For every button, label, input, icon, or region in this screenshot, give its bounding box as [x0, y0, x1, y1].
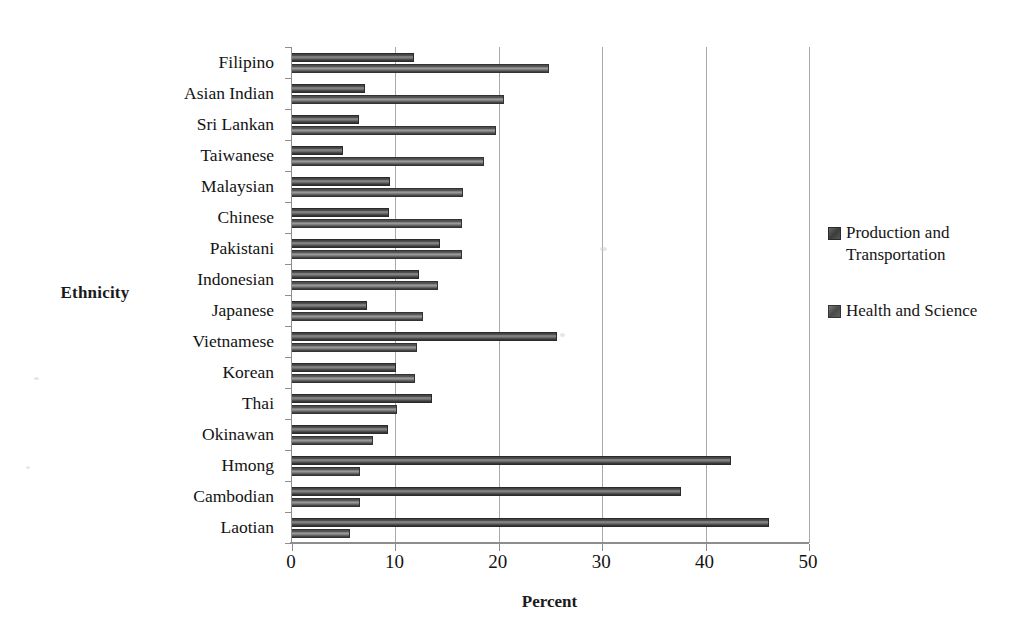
bar-production-transportation [292, 456, 731, 465]
y-axis-category-label: Malaysian [150, 171, 282, 202]
bar-rows [292, 47, 809, 543]
x-axis-tick-label: 30 [592, 551, 611, 573]
y-axis-tick [285, 512, 292, 513]
bar-health-science [292, 436, 373, 445]
bar-health-science [292, 157, 484, 166]
bar-row [292, 78, 809, 109]
y-axis-tick [285, 388, 292, 389]
x-axis-tick-label: 10 [385, 551, 404, 573]
bar-production-transportation [292, 487, 681, 496]
bar-row [292, 295, 809, 326]
bar-row [292, 388, 809, 419]
x-axis-tick [395, 544, 396, 551]
x-axis-tick [499, 544, 500, 551]
bar-production-transportation [292, 518, 769, 527]
bar-health-science [292, 498, 360, 507]
bar-health-science [292, 188, 463, 197]
bar-row [292, 171, 809, 202]
bar-health-science [292, 219, 462, 228]
legend-label-production: Production and Transportation [846, 222, 996, 266]
y-axis-tick [285, 326, 292, 327]
bar-row [292, 450, 809, 481]
legend-swatch-health-icon [828, 305, 841, 318]
bar-row [292, 47, 809, 78]
bar-production-transportation [292, 425, 388, 434]
y-axis-category-label: Filipino [150, 47, 282, 78]
y-axis-tick [285, 233, 292, 234]
y-axis-tick [285, 264, 292, 265]
y-axis-category-label: Chinese [150, 202, 282, 233]
legend-swatch-production-icon [828, 227, 841, 240]
bar-row [292, 233, 809, 264]
legend-entry-production: Production and Transportation [828, 222, 1008, 266]
y-axis-category-label: Indonesian [150, 264, 282, 295]
y-axis-category-label: Cambodian [150, 481, 282, 512]
bar-row [292, 109, 809, 140]
y-axis-tick [285, 419, 292, 420]
bar-production-transportation [292, 301, 367, 310]
y-axis-tick [285, 295, 292, 296]
bar-row [292, 357, 809, 388]
bar-row [292, 481, 809, 512]
x-axis-title: Percent [291, 592, 808, 612]
x-axis-tick [706, 544, 707, 551]
y-axis-title: Ethnicity [30, 283, 160, 303]
y-axis-category-labels: FilipinoAsian IndianSri LankanTaiwaneseM… [150, 47, 282, 543]
x-axis-tick [602, 544, 603, 551]
bar-row [292, 264, 809, 295]
scan-speckle [34, 377, 39, 380]
scan-speckle [560, 333, 565, 337]
bar-health-science [292, 405, 397, 414]
y-axis-tick [285, 171, 292, 172]
x-axis-tick-labels: 01020304050 [291, 551, 808, 577]
bar-production-transportation [292, 146, 343, 155]
bar-row [292, 326, 809, 357]
y-axis-tick [285, 202, 292, 203]
y-axis-tick [285, 140, 292, 141]
bar-production-transportation [292, 363, 396, 372]
bar-production-transportation [292, 270, 419, 279]
y-axis-tick [285, 450, 292, 451]
bar-health-science [292, 374, 415, 383]
y-axis-category-label: Laotian [150, 512, 282, 543]
y-axis-tick [285, 109, 292, 110]
bar-health-science [292, 281, 438, 290]
x-axis-tick-label: 0 [286, 551, 296, 573]
bar-health-science [292, 529, 350, 538]
bar-production-transportation [292, 332, 557, 341]
bar-production-transportation [292, 84, 365, 93]
x-axis-tick [809, 544, 810, 551]
bar-production-transportation [292, 53, 414, 62]
gridline [809, 47, 810, 543]
y-axis-category-label: Sri Lankan [150, 109, 282, 140]
plot-area [291, 47, 809, 543]
bar-production-transportation [292, 177, 390, 186]
y-axis-category-label: Okinawan [150, 419, 282, 450]
bar-health-science [292, 312, 423, 321]
y-axis-category-label: Hmong [150, 450, 282, 481]
y-axis-tick [285, 47, 292, 48]
bar-row [292, 419, 809, 450]
y-axis-category-label: Vietnamese [150, 326, 282, 357]
y-axis-category-label: Korean [150, 357, 282, 388]
bar-row [292, 140, 809, 171]
legend: Production and Transportation Health and… [828, 222, 1008, 355]
y-axis-category-label: Thai [150, 388, 282, 419]
y-axis-category-label: Japanese [150, 295, 282, 326]
bar-production-transportation [292, 394, 432, 403]
x-axis-tick-label: 20 [488, 551, 507, 573]
x-axis-tick-label: 50 [799, 551, 818, 573]
scan-speckle [600, 247, 607, 251]
bar-production-transportation [292, 115, 359, 124]
y-axis-category-label: Pakistani [150, 233, 282, 264]
bar-health-science [292, 126, 496, 135]
x-axis-tick [292, 544, 293, 551]
x-axis-line [290, 542, 809, 544]
bar-production-transportation [292, 208, 389, 217]
bar-health-science [292, 467, 360, 476]
y-axis-tick [285, 357, 292, 358]
scan-speckle [26, 466, 30, 469]
y-axis-tick [285, 78, 292, 79]
bar-health-science [292, 250, 462, 259]
bar-row [292, 512, 809, 543]
